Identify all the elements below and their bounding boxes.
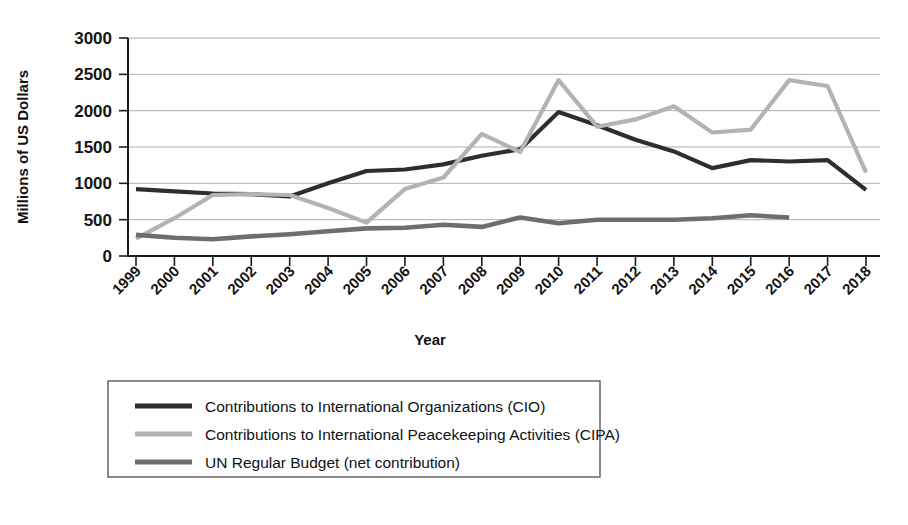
y-tick-label: 500 [84,211,112,230]
legend-label-2: UN Regular Budget (net contribution) [205,454,460,471]
y-tick-label: 3000 [74,29,112,48]
y-tick-label: 1500 [74,138,112,157]
y-tick-label: 2000 [74,102,112,121]
y-tick-label: 1000 [74,174,112,193]
legend-label-0: Contributions to International Organizat… [205,398,545,415]
legend-label-1: Contributions to International Peacekeep… [205,426,620,443]
line-chart-figure: 050010001500200025003000 199920002001200… [0,0,908,525]
y-tick-label: 0 [103,247,112,266]
y-axis-label: Millions of US Dollars [14,70,31,224]
y-tick-label: 2500 [74,65,112,84]
x-axis-label: Year [414,331,446,348]
